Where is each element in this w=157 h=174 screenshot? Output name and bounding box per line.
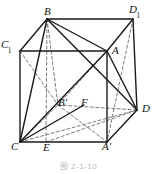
edge-D1-D: [133, 19, 137, 110]
vertex-label-B-prime: B′: [58, 97, 67, 108]
figure-caption: 图 2-1-10: [0, 160, 157, 171]
vertex-label-E: E: [43, 142, 50, 153]
vertex-label-B: B: [44, 6, 51, 17]
edge-A-D1: [107, 19, 133, 51]
vertex-label-F: F: [81, 97, 88, 108]
vertex-label-C: C: [11, 141, 18, 152]
diag-B-A: [47, 19, 107, 51]
vertex-label-A-prime: A′: [102, 141, 111, 152]
vertex-label-D: D: [142, 103, 150, 114]
geometry-figure: B D1 C1 A B′ F D C E A′ 图 2-1-10: [0, 0, 157, 174]
hidden-diag-B-E: [46, 19, 47, 142]
visible-edges-group: [20, 19, 137, 142]
vertex-label-A: A: [112, 45, 119, 56]
hidden-diag-D1-A: [107, 19, 133, 142]
vertex-label-C1: C1: [1, 39, 12, 53]
cube-diagram: [0, 0, 157, 174]
hidden-edge-Bp-D: [58, 105, 137, 110]
diag-B-C: [20, 19, 47, 142]
vertex-label-D1: D1: [129, 4, 141, 18]
hidden-diag-C-D: [20, 110, 137, 142]
edge-Ap-D: [107, 110, 137, 142]
hidden-diag-E-D: [46, 110, 137, 142]
diag-A-D: [107, 51, 137, 110]
